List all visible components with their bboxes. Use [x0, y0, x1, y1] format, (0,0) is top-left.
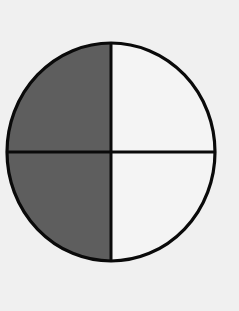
- fraction-circle-diagram: [0, 0, 239, 311]
